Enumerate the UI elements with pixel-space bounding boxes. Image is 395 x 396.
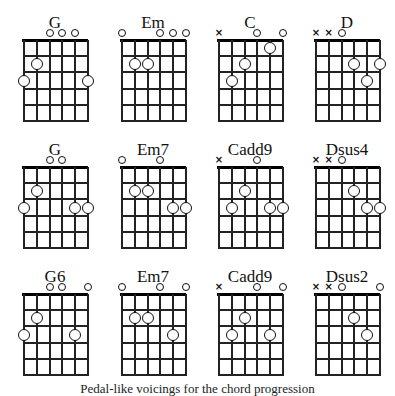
- string-line: [172, 40, 174, 122]
- chord-name: Dsus4: [295, 141, 395, 158]
- chord-name: G: [3, 141, 107, 158]
- muted-string-icon: ×: [311, 155, 321, 165]
- muted-string-icon: ×: [214, 155, 224, 165]
- chord-name: G6: [3, 268, 107, 285]
- fret-line: [218, 104, 283, 106]
- string-line: [61, 294, 63, 376]
- nut: [314, 293, 380, 296]
- open-string-icon: [253, 156, 261, 164]
- string-line: [134, 40, 136, 122]
- open-string-icon: [118, 156, 126, 164]
- finger-dot-icon: [264, 42, 276, 54]
- open-string-icon: [376, 283, 384, 291]
- open-string-icon: [58, 29, 66, 37]
- string-line: [121, 40, 123, 122]
- nut: [120, 166, 186, 169]
- finger-dot-icon: [142, 185, 154, 197]
- muted-string-icon: ×: [324, 282, 334, 292]
- fret-line: [315, 231, 380, 233]
- open-string-icon: [58, 156, 66, 164]
- fret-line: [218, 342, 283, 344]
- string-line: [49, 167, 51, 249]
- finger-dot-icon: [31, 58, 43, 70]
- finger-dot-icon: [31, 185, 43, 197]
- finger-dot-icon: [226, 329, 238, 341]
- fret-line: [315, 71, 380, 73]
- string-line: [121, 294, 123, 376]
- string-line: [36, 40, 38, 122]
- fret-line: [218, 88, 283, 90]
- chord-name: Em: [101, 14, 205, 31]
- open-string-icon: [156, 283, 164, 291]
- string-line: [282, 40, 284, 122]
- string-line: [341, 40, 343, 122]
- string-line: [353, 40, 355, 122]
- open-string-icon: [338, 156, 346, 164]
- fret-line: [315, 88, 380, 90]
- string-line: [353, 167, 355, 249]
- fret-line: [218, 198, 283, 200]
- fretboard-grid: ×: [218, 294, 282, 376]
- open-string-icon: [156, 29, 164, 37]
- finger-dot-icon: [167, 329, 179, 341]
- fret-line: [121, 309, 186, 311]
- string-line: [328, 40, 330, 122]
- fret-line: [23, 120, 88, 122]
- fret-line: [23, 88, 88, 90]
- fretboard-grid: [23, 167, 87, 249]
- string-line: [282, 294, 284, 376]
- fret-line: [315, 309, 380, 311]
- fret-line: [315, 182, 380, 184]
- muted-string-icon: ×: [214, 28, 224, 38]
- finger-dot-icon: [69, 329, 81, 341]
- muted-string-icon: ×: [311, 282, 321, 292]
- string-line: [36, 294, 38, 376]
- nut: [217, 39, 283, 42]
- finger-dot-icon: [239, 58, 251, 70]
- finger-dot-icon: [361, 75, 373, 87]
- fret-line: [23, 358, 88, 360]
- fret-line: [121, 71, 186, 73]
- fret-line: [315, 374, 380, 376]
- string-line: [159, 294, 161, 376]
- finger-dot-icon: [348, 312, 360, 324]
- string-line: [49, 40, 51, 122]
- fret-line: [23, 374, 88, 376]
- fret-line: [121, 104, 186, 106]
- string-line: [244, 294, 246, 376]
- string-line: [315, 40, 317, 122]
- finger-dot-icon: [18, 75, 30, 87]
- muted-string-icon: ×: [324, 28, 334, 38]
- open-string-icon: [169, 29, 177, 37]
- finger-dot-icon: [82, 75, 94, 87]
- nut: [22, 39, 88, 42]
- fretboard-grid: [121, 294, 185, 376]
- string-line: [87, 294, 89, 376]
- open-string-icon: [118, 29, 126, 37]
- string-line: [328, 294, 330, 376]
- string-line: [134, 167, 136, 249]
- string-line: [147, 167, 149, 249]
- open-string-icon: [58, 283, 66, 291]
- fret-line: [23, 247, 88, 249]
- nut: [314, 166, 380, 169]
- muted-string-icon: ×: [324, 155, 334, 165]
- nut: [314, 39, 380, 42]
- open-string-icon: [253, 29, 261, 37]
- fretboard-grid: [121, 167, 185, 249]
- finger-dot-icon: [264, 329, 276, 341]
- fret-line: [315, 342, 380, 344]
- open-string-icon: [253, 283, 261, 291]
- string-line: [379, 294, 381, 376]
- fret-line: [121, 231, 186, 233]
- finger-dot-icon: [69, 202, 81, 214]
- fret-line: [218, 374, 283, 376]
- finger-dot-icon: [18, 202, 30, 214]
- finger-dot-icon: [264, 202, 276, 214]
- string-line: [218, 40, 220, 122]
- nut: [120, 39, 186, 42]
- open-string-icon: [338, 283, 346, 291]
- fret-line: [218, 358, 283, 360]
- string-line: [341, 167, 343, 249]
- open-string-icon: [84, 283, 92, 291]
